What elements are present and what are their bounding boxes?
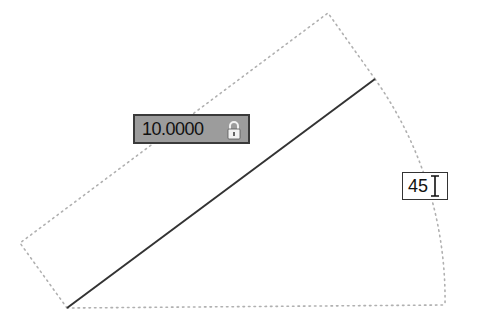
- length-input[interactable]: 10.0000: [133, 114, 250, 144]
- length-extension-outline: [20, 13, 375, 308]
- length-value[interactable]: 10.0000: [142, 119, 204, 140]
- angle-baseline: [67, 305, 445, 308]
- angle-input[interactable]: 45: [402, 172, 448, 200]
- drawing-canvas[interactable]: [0, 0, 480, 324]
- text-cursor-icon: [429, 175, 441, 197]
- lock-icon[interactable]: [226, 120, 242, 140]
- angle-value[interactable]: 45: [408, 176, 428, 197]
